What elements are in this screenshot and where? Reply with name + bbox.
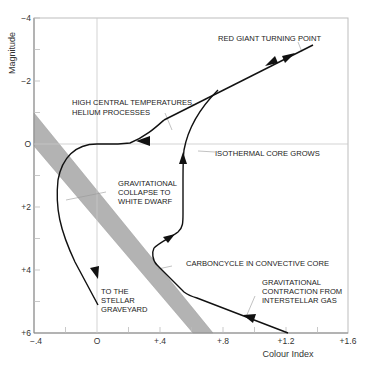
label-graveyard: TO THE: [101, 287, 129, 296]
y-axis-title: Magnitude: [7, 32, 17, 74]
label-carbon: CARBONCYCLE IN CONVECTIVE CORE: [186, 259, 329, 268]
arrow-icon: [136, 136, 150, 146]
y-ticks: [34, 18, 40, 302]
arrow-icon: [243, 314, 256, 323]
label-high-temp: HELIUM PROCESSES: [72, 108, 150, 117]
y-tick-label: +2: [21, 202, 31, 212]
x-tick-label: +.8: [217, 336, 229, 346]
hr-diagram: −4 −2 O +2 +4 +6 −.4 O +.4 +.8 +1.2 +1.6…: [0, 0, 369, 369]
x-tick-label: +1.6: [340, 336, 357, 346]
label-contraction: GRAVITATIONAL: [262, 278, 321, 287]
label-isothermal: ISOTHERMAL CORE GROWS: [215, 149, 320, 158]
label-high-temp: HIGH CENTRAL TEMPERATURES,: [72, 98, 194, 107]
x-tick-label: O: [94, 336, 101, 346]
label-contraction: INTERSTELLAR GAS: [262, 296, 337, 305]
arrow-icon: [282, 53, 295, 63]
x-tick-label: +1.2: [278, 336, 295, 346]
x-tick-label: −.4: [30, 336, 42, 346]
x-axis-title: Colour Index: [262, 349, 314, 359]
leader-lines: [66, 42, 302, 317]
arrow-icon: [90, 266, 99, 279]
y-tick-label: −4: [21, 13, 31, 23]
y-tick-label: +4: [21, 265, 31, 275]
x-tick-label: +.4: [154, 336, 166, 346]
label-collapse: WHITE DWARF: [118, 197, 172, 206]
arrow-icon: [265, 56, 278, 66]
label-collapse: COLLAPSE TO: [118, 188, 171, 197]
label-graveyard: GRAVEYARD: [101, 305, 148, 314]
arrow-icon: [179, 152, 187, 164]
label-red-giant: RED GIANT TURNING POINT: [218, 34, 321, 43]
y-tick-label: O: [24, 139, 31, 149]
y-tick-label: −2: [21, 76, 31, 86]
label-contraction: CONTRACTION FROM: [262, 287, 342, 296]
label-collapse: GRAVITATIONAL: [118, 179, 177, 188]
arrow-icon: [163, 234, 175, 243]
label-graveyard: STELLAR: [101, 296, 135, 305]
